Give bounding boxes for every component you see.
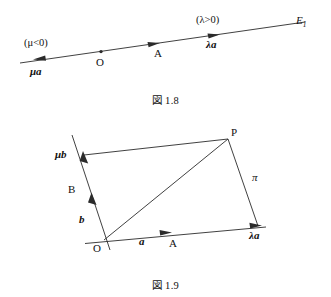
- fig19-vector-a-label: a: [139, 236, 145, 247]
- fig18-caption: 図 1.8: [0, 92, 331, 107]
- fig19-plane-pi-label: π: [252, 172, 258, 183]
- fig19-vector-b-label: b: [79, 214, 85, 225]
- fig19-diagonal-op: [104, 139, 228, 240]
- fig18-lambda-vector-label: λa: [206, 39, 216, 50]
- fig19-mu-b-label: μb: [55, 149, 67, 160]
- fig18-origin-dot: [99, 50, 102, 53]
- fig18-main-line: [20, 22, 305, 63]
- fig18-line-name-label: E1: [296, 15, 306, 29]
- figure-page: (μ<0) μa O A (λ>0) λa E1 図 1.8 μb B b O …: [0, 0, 331, 297]
- fig19-origin-label: O: [93, 243, 101, 254]
- fig19-caption: 図 1.9: [0, 277, 331, 292]
- fig19-lambda-a-label: λa: [249, 230, 259, 241]
- fig19-b-axis-line: [72, 135, 110, 250]
- fig-1-9-graphics: [72, 135, 266, 250]
- fig19-point-p-label: P: [231, 127, 237, 138]
- fig18-line-name-base: E: [296, 14, 303, 26]
- fig18-mu-arrowhead: [33, 56, 46, 61]
- fig19-b-arrowhead: [88, 193, 97, 206]
- fig18-mu-vector-label: μa: [30, 66, 42, 77]
- fig19-top-edge: [84, 139, 228, 155]
- fig19-point-a-label: A: [169, 238, 177, 249]
- fig-1-8-graphics: [20, 22, 305, 63]
- figures-vector-canvas: [0, 0, 331, 297]
- fig18-point-a-label: A: [154, 48, 162, 59]
- fig19-point-b-label: B: [68, 184, 75, 195]
- fig18-origin-label: O: [96, 57, 104, 68]
- fig18-lambda-condition-label: (λ>0): [196, 15, 219, 26]
- fig18-line-name-subscript: 1: [303, 20, 307, 29]
- fig18-mu-condition-label: (μ<0): [24, 38, 48, 49]
- fig19-a-arrowhead: [160, 230, 173, 236]
